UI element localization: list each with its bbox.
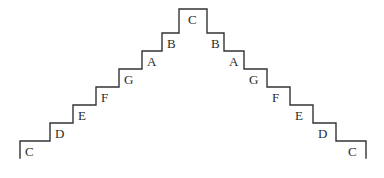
step-label-b-8: B xyxy=(211,37,220,50)
step-label-c-7: C xyxy=(188,13,197,26)
step-label-f-3: F xyxy=(101,91,108,104)
step-label-a-9: A xyxy=(229,55,238,68)
step-label-d-13: D xyxy=(318,127,327,140)
step-label-f-11: F xyxy=(272,91,279,104)
step-label-a-5: A xyxy=(147,55,156,68)
step-label-d-1: D xyxy=(55,127,64,140)
step-label-c-14: C xyxy=(348,145,357,158)
step-label-e-2: E xyxy=(78,109,86,122)
step-label-g-10: G xyxy=(249,73,258,86)
step-label-b-6: B xyxy=(167,37,176,50)
step-label-e-12: E xyxy=(295,109,303,122)
step-label-c-0: C xyxy=(25,145,34,158)
staircase-diagram: CDEFGABCBAGFEDC xyxy=(0,0,384,178)
staircase-path xyxy=(20,9,366,158)
step-label-g-4: G xyxy=(124,73,133,86)
